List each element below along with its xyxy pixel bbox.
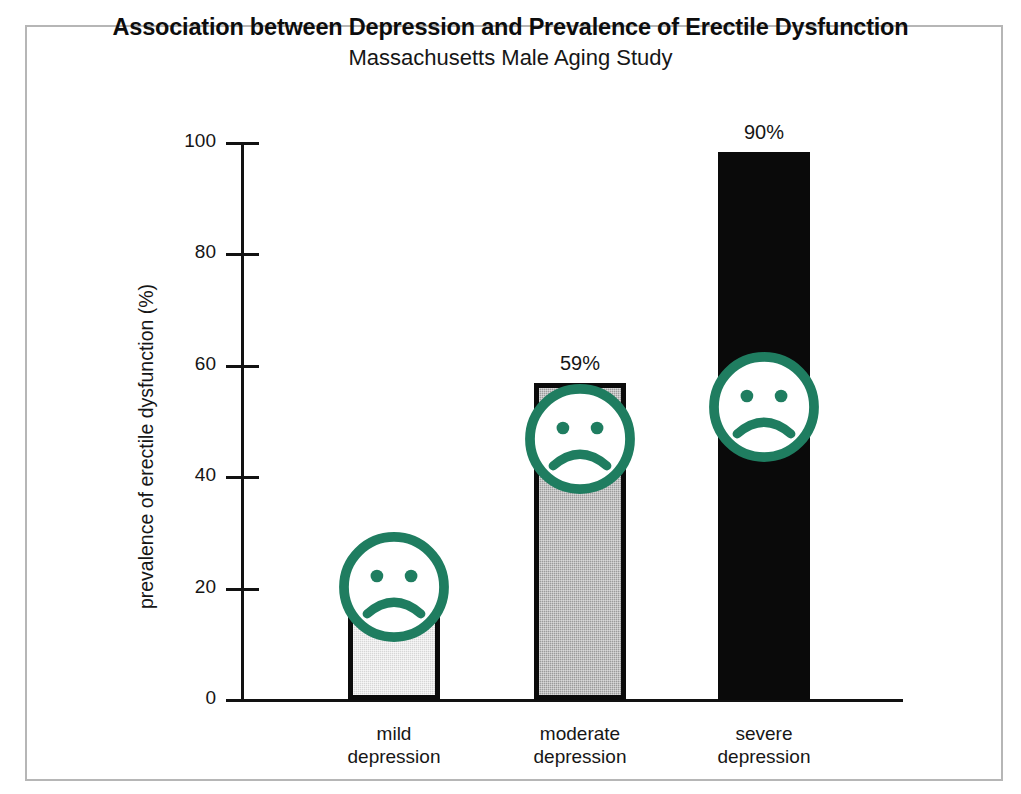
y-axis-title: prevalence of erectile dysfunction (%) [135,237,158,657]
bar-value-label: 90% [718,121,810,144]
bar-moderate[interactable] [534,383,626,700]
y-tick-label: 40 [170,464,216,486]
y-tick-mark [226,476,259,479]
y-tick-label: 80 [170,241,216,263]
category-label-line: severe [654,722,874,745]
category-label-line: depression [654,745,874,768]
bar-mild[interactable] [348,563,440,700]
y-tick-label: 20 [170,576,216,598]
bar-value-label: 25% [348,532,440,555]
y-tick-mark [226,365,259,368]
y-tick-mark [226,253,259,256]
y-tick-mark [226,699,259,702]
y-tick-label: 0 [170,687,216,709]
y-tick-label: 60 [170,353,216,375]
bar-severe[interactable] [718,152,810,700]
y-tick-label: 100 [170,130,216,152]
y-axis-line [241,143,244,702]
category-label-severe: severedepression [654,722,874,768]
y-tick-mark [226,588,259,591]
y-tick-mark [226,142,259,145]
bar-value-label: 59% [534,352,626,375]
plot-area: prevalence of erectile dysfunction (%) 0… [0,0,1021,794]
